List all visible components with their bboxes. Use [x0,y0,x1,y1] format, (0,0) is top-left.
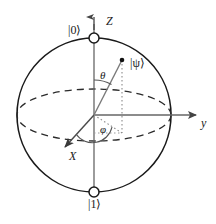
bloch-sphere-canvas [0,0,216,224]
label-angle-theta: θ [100,70,105,81]
label-axis-x: X [69,150,76,162]
bloch-sphere-figure: |0⟩ |1⟩ |ψ⟩ Z y X θ φ [0,0,216,224]
north-pole-marker [89,33,99,43]
label-axis-z: Z [106,15,113,27]
label-angle-phi: φ [100,124,106,135]
label-axis-y: y [201,117,206,129]
state-vector-line [94,60,122,115]
state-point-marker [120,58,125,63]
label-ket-zero: |0⟩ [68,24,81,36]
south-pole-marker [89,187,99,197]
label-ket-psi: |ψ⟩ [130,57,145,69]
label-ket-one: |1⟩ [88,198,101,210]
state-projection-plane [94,115,122,133]
